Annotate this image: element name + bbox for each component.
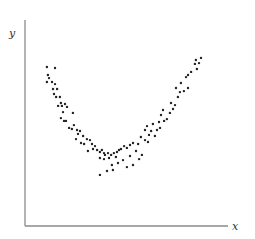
data-point xyxy=(187,74,189,76)
data-point xyxy=(99,174,101,176)
data-point xyxy=(150,130,152,132)
data-point xyxy=(47,74,49,76)
data-point xyxy=(63,120,65,122)
data-point xyxy=(82,135,84,137)
data-point xyxy=(135,150,137,152)
data-point xyxy=(112,169,114,171)
data-point xyxy=(89,139,91,141)
data-point xyxy=(146,125,148,127)
scatter-points xyxy=(46,57,203,176)
data-point xyxy=(129,144,131,146)
data-point xyxy=(123,145,125,147)
data-point xyxy=(141,154,143,156)
data-point xyxy=(159,127,161,129)
data-point xyxy=(200,57,202,59)
data-point xyxy=(54,83,56,85)
data-point xyxy=(53,93,55,95)
data-point xyxy=(60,117,62,119)
data-point xyxy=(154,135,156,137)
data-point xyxy=(187,87,189,89)
data-point xyxy=(183,90,185,92)
data-point xyxy=(68,127,70,129)
data-point xyxy=(177,96,179,98)
data-point xyxy=(160,114,162,116)
data-point xyxy=(103,158,105,160)
data-point xyxy=(87,150,89,152)
data-point xyxy=(196,68,198,70)
data-point xyxy=(75,138,77,140)
data-point xyxy=(61,105,63,107)
data-point xyxy=(194,63,196,65)
data-point xyxy=(148,134,150,136)
data-point xyxy=(129,155,131,157)
data-point xyxy=(56,88,58,90)
data-point xyxy=(137,143,139,145)
data-point xyxy=(54,67,56,69)
data-point xyxy=(52,88,54,90)
data-point xyxy=(111,164,113,166)
data-point xyxy=(48,77,50,79)
data-point xyxy=(46,81,48,83)
data-point xyxy=(110,154,112,156)
data-point xyxy=(91,143,93,145)
data-point xyxy=(144,139,146,141)
data-point xyxy=(132,142,134,144)
data-point xyxy=(126,166,128,168)
data-point xyxy=(46,66,48,68)
data-point xyxy=(57,105,59,107)
data-point xyxy=(66,106,68,108)
data-point xyxy=(71,128,73,130)
data-point xyxy=(99,151,101,153)
data-point xyxy=(55,96,57,98)
data-point xyxy=(180,82,182,84)
data-point xyxy=(116,151,118,153)
data-point xyxy=(172,108,174,110)
data-point xyxy=(62,111,64,113)
data-point xyxy=(51,81,53,83)
x-axis-label: x xyxy=(232,220,239,233)
data-point xyxy=(169,112,171,114)
data-point xyxy=(96,149,98,151)
data-point xyxy=(99,157,101,159)
data-point xyxy=(195,59,197,61)
data-point xyxy=(94,145,96,147)
data-point xyxy=(83,143,85,145)
data-point xyxy=(144,129,146,131)
data-point xyxy=(72,112,74,114)
data-point xyxy=(185,76,187,78)
data-point xyxy=(113,152,115,154)
data-point xyxy=(156,129,158,131)
data-point xyxy=(108,157,110,159)
data-point xyxy=(86,138,88,140)
data-point xyxy=(179,91,181,93)
scatter-chart: y x xyxy=(0,0,255,239)
data-point xyxy=(73,124,75,126)
data-point xyxy=(190,71,192,73)
data-point xyxy=(77,133,79,135)
data-point xyxy=(140,136,142,138)
data-point xyxy=(166,118,168,120)
data-point xyxy=(101,149,103,151)
data-point xyxy=(107,152,109,154)
data-point xyxy=(76,129,78,131)
y-axis-label: y xyxy=(8,27,16,40)
data-point xyxy=(175,87,177,89)
data-point xyxy=(158,121,160,123)
data-point xyxy=(104,154,106,156)
data-point xyxy=(147,141,149,143)
data-point xyxy=(138,158,140,160)
data-point xyxy=(174,104,176,106)
data-point xyxy=(122,159,124,161)
data-point xyxy=(106,170,108,172)
data-point xyxy=(92,148,94,150)
data-point xyxy=(198,62,200,64)
data-point xyxy=(152,123,154,125)
data-point xyxy=(59,96,61,98)
data-point xyxy=(60,102,62,104)
data-point xyxy=(120,148,122,150)
data-point xyxy=(170,102,172,104)
data-point xyxy=(80,142,82,144)
data-point xyxy=(115,156,117,158)
data-point xyxy=(163,120,165,122)
data-point xyxy=(126,147,128,149)
